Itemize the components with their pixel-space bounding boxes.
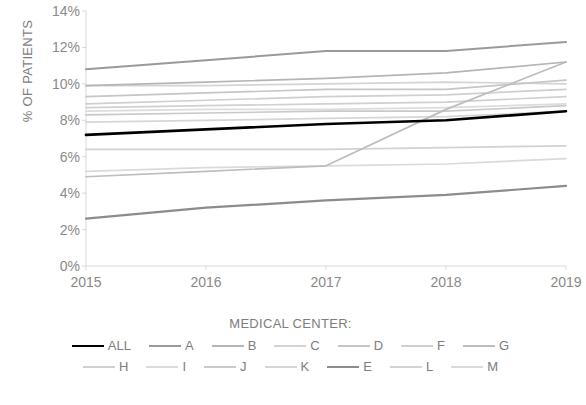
legend-item-d[interactable]: D xyxy=(338,339,383,353)
legend-swatch-m xyxy=(451,366,483,368)
legend-row: ALLABCDFG xyxy=(0,339,581,353)
legend-item-m[interactable]: M xyxy=(451,360,498,374)
legend-row: HIJKELM xyxy=(0,360,581,374)
x-tick-label: 2015 xyxy=(51,272,121,292)
legend-swatch-a xyxy=(149,345,181,347)
legend-title: MEDICAL CENTER: xyxy=(0,316,581,331)
legend-swatch-g xyxy=(463,345,495,347)
legend-item-j[interactable]: J xyxy=(204,360,247,374)
chart-legend: MEDICAL CENTER: ALLABCDFGHIJKELM xyxy=(0,316,581,381)
legend-label-a: A xyxy=(185,339,194,353)
legend-item-g[interactable]: G xyxy=(463,339,509,353)
legend-label-f: F xyxy=(437,339,445,353)
legend-label-b: B xyxy=(248,339,257,353)
legend-swatch-l xyxy=(390,366,422,368)
x-tick-label: 2018 xyxy=(411,272,481,292)
legend-item-all[interactable]: ALL xyxy=(72,339,131,353)
legend-item-h[interactable]: H xyxy=(83,360,128,374)
series-line-f xyxy=(86,89,566,104)
series-line-l xyxy=(86,146,566,150)
legend-rows: ALLABCDFGHIJKELM xyxy=(0,339,581,374)
legend-item-a[interactable]: A xyxy=(149,339,194,353)
legend-item-k[interactable]: K xyxy=(265,360,310,374)
legend-swatch-all xyxy=(72,345,104,348)
series-line-i xyxy=(86,104,566,111)
legend-item-e[interactable]: E xyxy=(327,360,372,374)
x-tick-label: 2017 xyxy=(291,272,361,292)
legend-label-m: M xyxy=(487,360,498,374)
x-tick-label: 2019 xyxy=(531,272,586,292)
legend-label-c: C xyxy=(310,339,319,353)
x-tick-label: 2016 xyxy=(171,272,241,292)
legend-label-k: K xyxy=(301,360,310,374)
legend-swatch-k xyxy=(265,366,297,368)
x-axis-tick-labels: 20152016201720182019 xyxy=(0,272,581,294)
series-line-a xyxy=(86,42,566,69)
legend-swatch-e xyxy=(327,366,359,368)
legend-swatch-h xyxy=(83,366,115,368)
legend-label-i: I xyxy=(182,360,186,374)
legend-label-h: H xyxy=(119,360,128,374)
legend-label-j: J xyxy=(240,360,247,374)
legend-label-d: D xyxy=(374,339,383,353)
legend-swatch-c xyxy=(274,345,306,347)
legend-item-i[interactable]: I xyxy=(146,360,186,374)
legend-swatch-f xyxy=(401,345,433,347)
legend-label-g: G xyxy=(499,339,509,353)
legend-swatch-d xyxy=(338,345,370,347)
series-line-e xyxy=(86,186,566,219)
legend-item-b[interactable]: B xyxy=(212,339,257,353)
legend-item-c[interactable]: C xyxy=(274,339,319,353)
plot-area xyxy=(0,0,581,300)
legend-swatch-j xyxy=(204,366,236,368)
legend-label-all: ALL xyxy=(108,339,131,353)
legend-label-e: E xyxy=(363,360,372,374)
legend-item-f[interactable]: F xyxy=(401,339,445,353)
legend-swatch-i xyxy=(146,366,178,368)
legend-label-l: L xyxy=(426,360,433,374)
legend-swatch-b xyxy=(212,345,244,347)
legend-item-l[interactable]: L xyxy=(390,360,433,374)
